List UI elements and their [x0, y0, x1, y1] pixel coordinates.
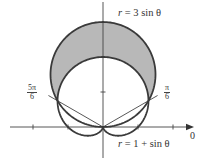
- label-inner-curve: r = 1 + sin θ: [118, 138, 170, 149]
- label-angle-5pi-over-6: 5π 6: [27, 84, 37, 101]
- label-outer-curve: r = 3 sin θ: [118, 7, 161, 18]
- label-polar-axis-zero: 0: [190, 130, 195, 141]
- label-outer-lhs: r: [118, 7, 122, 18]
- label-inner-lhs: r: [118, 138, 122, 149]
- label-angle-pi-over-6: π 6: [164, 84, 170, 101]
- label-angle-right-den: 6: [164, 93, 170, 101]
- label-outer-rhs: 3 sin θ: [133, 7, 161, 18]
- label-angle-left-den: 6: [27, 93, 37, 101]
- label-inner-rhs: 1 + sin θ: [133, 138, 169, 149]
